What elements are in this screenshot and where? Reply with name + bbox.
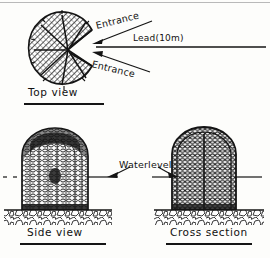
waterlevel-label: Waterlevel [119,159,172,170]
caption-top-view: Top view [28,86,78,98]
figure-page: Entrance Entrance Lead(10m) Top view [0,0,270,258]
cross-section-streambed [154,210,264,225]
caption-rule-side-view [20,243,106,245]
side-view-streambed [4,210,112,225]
entrance-top-arrowhead [92,39,103,44]
caption-cross-section: Cross section [170,226,248,238]
entrance-bottom-arrowhead [92,51,103,57]
side-view-entrance-shadow [49,168,61,184]
lower-figures [0,118,270,226]
lead-label: Lead(10m) [133,33,184,43]
caption-side-view: Side view [27,226,83,238]
caption-rule-cross-section [166,243,252,245]
waterlevel-arrowhead-left [107,172,118,178]
caption-rule-top-view [24,103,104,105]
